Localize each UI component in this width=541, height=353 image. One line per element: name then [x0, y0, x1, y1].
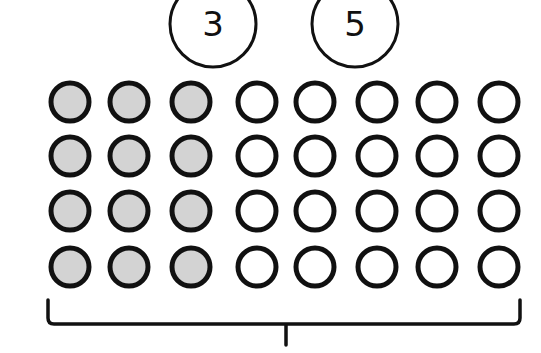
- unshaded-dot: [238, 248, 276, 286]
- unshaded-dot: [358, 248, 396, 286]
- unshaded-dot: [238, 137, 276, 175]
- shaded-dot: [110, 83, 148, 121]
- unshaded-dot: [296, 248, 334, 286]
- unshaded-dot: [358, 137, 396, 175]
- label-number: 3: [202, 4, 224, 44]
- unshaded-dot: [480, 137, 518, 175]
- unshaded-dot: [358, 83, 396, 121]
- label-number: 5: [344, 4, 366, 44]
- unshaded-dot: [238, 192, 276, 230]
- unshaded-dot: [418, 83, 456, 121]
- unshaded-dot: [358, 192, 396, 230]
- shaded-dot: [172, 137, 210, 175]
- unshaded-dot: [418, 137, 456, 175]
- factor-labels: 35: [170, 0, 398, 67]
- shaded-dot: [110, 137, 148, 175]
- unshaded-dot: [418, 248, 456, 286]
- dot-array: [51, 83, 518, 286]
- factor-label-5: 5: [312, 0, 398, 67]
- unshaded-dot: [296, 137, 334, 175]
- unshaded-dot: [296, 83, 334, 121]
- shaded-dot: [51, 83, 89, 121]
- unshaded-dot: [480, 192, 518, 230]
- shaded-dot: [172, 192, 210, 230]
- unshaded-dot: [480, 248, 518, 286]
- shaded-dot: [110, 192, 148, 230]
- shaded-dot: [51, 137, 89, 175]
- shaded-dot: [172, 248, 210, 286]
- shaded-dot: [110, 248, 148, 286]
- unshaded-dot: [418, 192, 456, 230]
- shaded-dot: [51, 248, 89, 286]
- unshaded-dot: [480, 83, 518, 121]
- unshaded-dot: [238, 83, 276, 121]
- total-bracket: [48, 300, 520, 345]
- shaded-dot: [51, 192, 89, 230]
- unshaded-dot: [296, 192, 334, 230]
- shaded-dot: [172, 83, 210, 121]
- array-diagram: 35: [0, 0, 541, 353]
- factor-label-3: 3: [170, 0, 256, 67]
